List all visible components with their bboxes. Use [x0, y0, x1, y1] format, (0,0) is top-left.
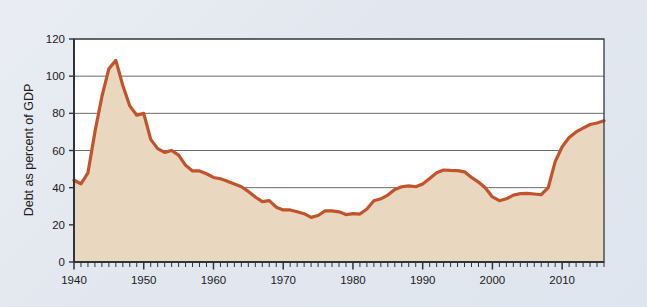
y-axis: 020406080100120	[46, 33, 74, 268]
y-axis-title: Debt as percent of GDP	[22, 84, 36, 217]
x-tick-label-1990: 1990	[410, 274, 436, 286]
x-tick-label-1970: 1970	[270, 274, 296, 286]
y-tick-label-120: 120	[46, 33, 65, 45]
x-tick-label-1950: 1950	[131, 274, 157, 286]
y-tick-label-20: 20	[52, 219, 65, 231]
x-tick-label-2010: 2010	[549, 274, 575, 286]
y-tick-label-0: 0	[59, 256, 65, 268]
y-tick-label-100: 100	[46, 70, 65, 82]
y-tick-label-80: 80	[52, 107, 65, 119]
x-tick-label-2000: 2000	[480, 274, 506, 286]
y-tick-label-40: 40	[52, 182, 65, 194]
chart-figure: 020406080100120 194019501960197019801990…	[0, 0, 647, 307]
x-axis: 19401950196019701980199020002010	[61, 262, 604, 286]
x-tick-label-1960: 1960	[201, 274, 227, 286]
x-tick-label-1940: 1940	[61, 274, 87, 286]
debt-to-gdp-area-chart: 020406080100120 194019501960197019801990…	[0, 0, 647, 307]
y-tick-label-60: 60	[52, 145, 65, 157]
x-tick-label-1980: 1980	[340, 274, 366, 286]
